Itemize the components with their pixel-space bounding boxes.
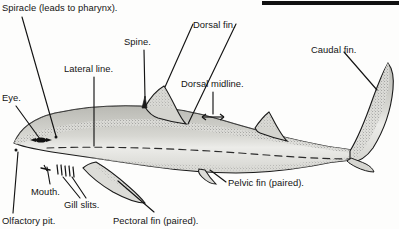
shark-anatomy-figure: Spiracle (leads to pharynx). Spine. Dors… (0, 0, 399, 229)
leader-olfactory-pit (13, 152, 18, 213)
label-olfactory-pit: Olfactory pit. (2, 216, 55, 226)
leader-gill-slits-a (63, 177, 80, 198)
caudal-fin (347, 62, 393, 172)
label-pelvic-fin: Pelvic fin (paired). (228, 178, 304, 188)
leader-dorsal-fin-right (188, 24, 236, 124)
top-black-rule (262, 1, 399, 5)
leader-spine (144, 50, 145, 98)
label-spiracle: Spiracle (leads to pharynx). (2, 3, 118, 13)
eye-shape (36, 137, 46, 142)
label-lateral-line: Lateral line. (64, 64, 113, 74)
mouth-tick (44, 165, 47, 171)
label-mouth: Mouth. (31, 187, 60, 197)
label-dorsal-fin: Dorsal fin. (193, 20, 236, 30)
leader-caudal-fin (344, 52, 377, 90)
label-gill-slits: Gill slits. (64, 200, 99, 210)
label-caudal-fin: Caudal fin. (311, 45, 356, 55)
label-pectoral-fin: Pectoral fin (paired). (113, 216, 199, 226)
label-eye: Eye. (2, 93, 21, 103)
leader-gill-slits-b (72, 177, 86, 198)
olfactory-pit (15, 149, 18, 152)
label-dorsal-midline: Dorsal midline. (181, 79, 244, 89)
gill-slits (57, 165, 74, 177)
shark-body (14, 102, 352, 173)
label-spine: Spine. (124, 37, 151, 47)
